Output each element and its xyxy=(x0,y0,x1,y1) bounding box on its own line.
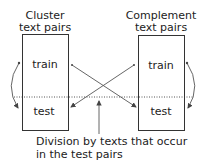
left-curved-arrow xyxy=(11,63,19,108)
left-group-title-line2: text pairs xyxy=(19,22,71,34)
cross-arrow-right-to-left xyxy=(71,65,134,107)
caption-line2: in the test pairs xyxy=(36,149,123,161)
caption-line1: Division by texts that occur xyxy=(36,136,187,148)
right-group-title-line2: text pairs xyxy=(135,22,187,34)
right-curved-arrow xyxy=(187,63,195,108)
cross-arrow-left-to-right xyxy=(72,65,136,107)
left-test-label: test xyxy=(33,106,54,118)
right-test-label: test xyxy=(150,106,171,118)
left-train-label: train xyxy=(32,59,58,71)
right-train-label: train xyxy=(148,60,174,72)
